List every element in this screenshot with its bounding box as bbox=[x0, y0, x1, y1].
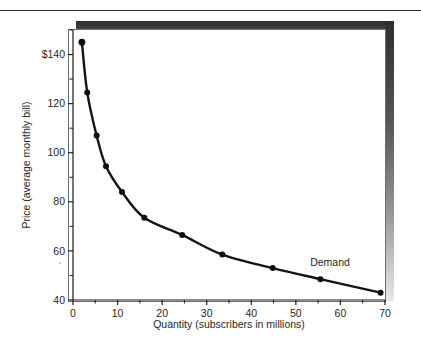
demand-series-label: Demand bbox=[310, 256, 350, 268]
demand-data-point bbox=[84, 90, 90, 96]
x-tick-label: 0 bbox=[70, 307, 76, 319]
y-axis-ticks bbox=[68, 30, 73, 300]
demand-data-point bbox=[270, 265, 276, 271]
demand-data-point bbox=[179, 232, 185, 238]
x-axis-ticks bbox=[73, 300, 385, 305]
demand-data-point bbox=[378, 290, 384, 296]
y-axis: 406080100120$140 bbox=[42, 30, 73, 306]
x-tick-label: 60 bbox=[335, 307, 347, 319]
x-tick-label: 70 bbox=[379, 307, 391, 319]
demand-data-point bbox=[317, 276, 323, 282]
y-axis-tick-labels: 406080100120$140 bbox=[42, 48, 66, 305]
x-tick-label: 20 bbox=[156, 307, 168, 319]
x-tick-label: 10 bbox=[112, 307, 124, 319]
demand-data-point bbox=[94, 133, 100, 139]
demand-curve-chart: 406080100120$140 010203040506070 Demand … bbox=[0, 0, 421, 346]
demand-data-point bbox=[103, 163, 109, 169]
x-tick-label: 50 bbox=[290, 307, 302, 319]
x-axis: 010203040506070 bbox=[70, 300, 391, 319]
demand-data-point bbox=[219, 252, 225, 258]
demand-data-point bbox=[79, 39, 86, 46]
y-tick-label: 120 bbox=[47, 97, 65, 109]
x-axis-tick-labels: 010203040506070 bbox=[70, 307, 391, 319]
x-tick-label: 40 bbox=[245, 307, 257, 319]
demand-data-point bbox=[119, 189, 125, 195]
x-tick-label: 30 bbox=[201, 307, 213, 319]
demand-data-point bbox=[141, 215, 147, 221]
y-tick-label: $140 bbox=[42, 48, 66, 60]
y-tick-label: 100 bbox=[47, 146, 65, 158]
y-axis-title: Price (average monthly bill) bbox=[20, 101, 32, 228]
y-tick-label: 40 bbox=[53, 294, 65, 306]
y-tick-label: 60 bbox=[53, 245, 65, 257]
x-axis-title: Quantity (subscribers in millions) bbox=[153, 318, 305, 330]
y-tick-label: 80 bbox=[53, 195, 65, 207]
